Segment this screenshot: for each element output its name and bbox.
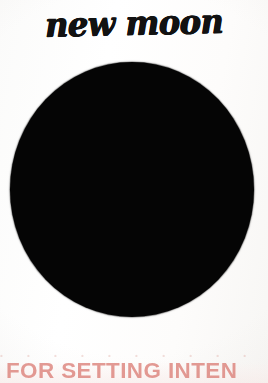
faded-ghost-text-row: • • • • • • • • • • • •	[0, 351, 268, 360]
new-moon-disc-icon	[10, 62, 254, 317]
title-area: new moon	[0, 4, 268, 42]
footer-banner: FOR SETTING INTEN	[0, 362, 268, 383]
footer-headline: FOR SETTING INTEN	[6, 362, 237, 383]
moon-phase-card: new moon • • • • • • • • • • • • FOR SET…	[0, 0, 268, 383]
page-title: new moon	[45, 1, 224, 45]
